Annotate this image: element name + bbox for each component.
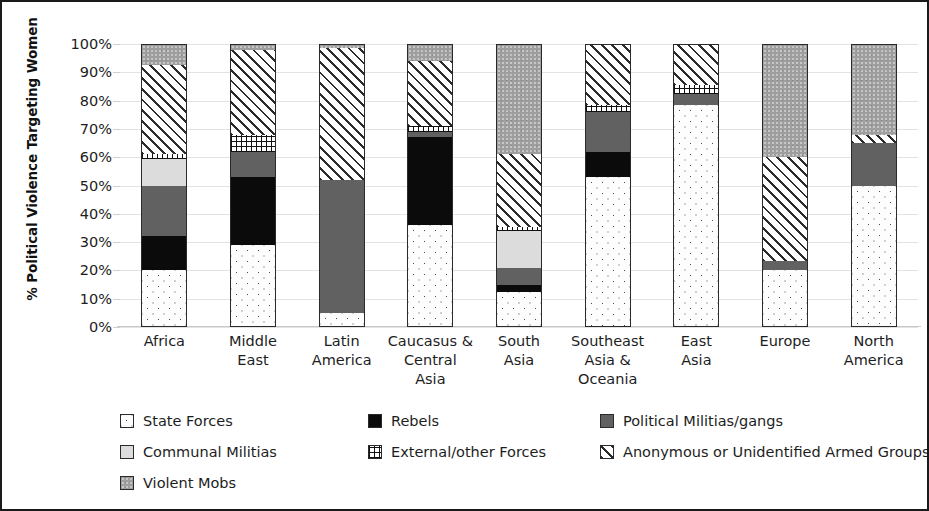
bar-segment-state[interactable] [851,186,897,328]
y-axis-tick-mark [113,157,120,158]
legend-item-mobs[interactable]: Violent Mobs [120,476,236,491]
y-axis-tick-mark [113,101,120,102]
bar-segment-external[interactable] [673,85,719,93]
chart-legend: State ForcesRebelsPolitical Militias/gan… [120,414,920,507]
x-axis-label: Caucasus &CentralAsia [382,332,478,389]
legend-item-rebels[interactable]: Rebels [368,414,439,429]
bar-segment-anonymous[interactable] [851,135,897,143]
bar-segment-mobs[interactable] [585,44,631,45]
stacked-bar[interactable] [319,44,365,327]
bar-group[interactable] [673,44,719,327]
y-axis-tick-mark [113,270,120,271]
bar-segment-mobs[interactable] [230,44,276,50]
bar-group[interactable] [230,44,276,327]
stacked-bar[interactable] [141,44,187,327]
bar-segment-polmil[interactable] [407,132,453,138]
stacked-bar[interactable] [230,44,276,327]
x-axis-label: Europe [737,332,833,351]
x-axis-label: SoutheastAsia &Oceania [560,332,656,389]
y-axis-tick-mark [113,186,120,187]
legend-row: State ForcesRebelsPolitical Militias/gan… [120,414,920,445]
bar-segment-anonymous[interactable] [407,61,453,126]
bar-segment-rebels[interactable] [496,285,542,292]
legend-row: Violent Mobs [120,476,920,507]
stacked-bar[interactable] [407,44,453,327]
bar-group[interactable] [585,44,631,327]
bar-segment-state[interactable] [141,270,187,327]
legend-item-state[interactable]: State Forces [120,414,233,429]
bar-segment-external[interactable] [141,154,187,158]
legend-row: Communal MilitiasExternal/other ForcesAn… [120,445,920,476]
bar-group[interactable] [407,44,453,327]
stacked-bar[interactable] [851,44,897,327]
bar-segment-state[interactable] [673,105,719,327]
legend-item-external[interactable]: External/other Forces [368,445,546,460]
bar-segment-polmil[interactable] [762,261,808,271]
bar-segment-communal[interactable] [141,159,187,186]
y-axis-tick-mark [113,214,120,215]
stacked-bar[interactable] [496,44,542,327]
bar-segment-anonymous[interactable] [496,154,542,226]
bar-segment-anonymous[interactable] [585,45,631,104]
bar-segment-state[interactable] [407,225,453,327]
bar-segment-mobs[interactable] [496,44,542,154]
bar-segment-anonymous[interactable] [141,65,187,154]
bar-segment-state[interactable] [762,270,808,327]
bar-group[interactable] [141,44,187,327]
bar-segment-polmil[interactable] [585,112,631,152]
bar-group[interactable] [496,44,542,327]
bar-segment-state[interactable] [496,292,542,327]
bar-segment-state[interactable] [230,245,276,327]
legend-label: Anonymous or Unidentified Armed Groups [623,445,929,460]
bar-segment-anonymous[interactable] [673,44,719,85]
legend-swatch-polmil-icon [600,414,614,428]
legend-item-anonymous[interactable]: Anonymous or Unidentified Armed Groups [600,445,929,460]
bar-segment-state[interactable] [319,313,365,327]
stacked-bar[interactable] [762,44,808,327]
bar-segment-external[interactable] [585,105,631,112]
bar-group[interactable] [319,44,365,327]
bar-segment-mobs[interactable] [407,44,453,61]
gridline [120,327,918,328]
bar-segment-rebels[interactable] [407,137,453,225]
stacked-bar[interactable] [585,44,631,327]
bar-segment-mobs[interactable] [851,44,897,135]
bar-segment-external[interactable] [230,135,276,152]
bar-segment-rebels[interactable] [141,236,187,270]
bar-segment-rebels[interactable] [585,152,631,177]
chart-frame: % Political Violence Targeting Women 0%1… [0,0,929,511]
bar-segment-external[interactable] [407,126,453,132]
y-axis-tick-label: 30% [58,235,112,250]
bar-segment-polmil[interactable] [496,268,542,285]
bar-segment-polmil[interactable] [230,152,276,177]
y-axis-title: % Political Violence Targeting Women [20,0,44,324]
bar-segment-anonymous[interactable] [230,50,276,135]
legend-item-communal[interactable]: Communal Militias [120,445,277,460]
bar-segment-mobs[interactable] [762,44,808,157]
legend-label: Rebels [391,414,439,429]
bar-segment-anonymous[interactable] [762,157,808,260]
bar-group[interactable] [851,44,897,327]
bar-group[interactable] [762,44,808,327]
y-axis-tick-mark [113,129,120,130]
bar-segment-polmil[interactable] [319,180,365,313]
legend-swatch-state-icon [120,414,134,428]
bar-segment-polmil[interactable] [673,94,719,105]
y-axis-tick-mark [113,72,120,73]
bar-segment-anonymous[interactable] [319,48,365,180]
bar-segment-polmil[interactable] [141,186,187,237]
bar-segment-rebels[interactable] [230,177,276,245]
x-axis-category-labels: AfricaMiddleEastLatinAmericaCaucasus &Ce… [120,332,918,402]
y-axis-tick-label: 100% [58,37,112,52]
bar-segment-mobs[interactable] [319,44,365,48]
y-axis-tick-label: 50% [58,178,112,193]
legend-label: Violent Mobs [143,476,236,491]
legend-item-polmil[interactable]: Political Militias/gangs [600,414,783,429]
bar-segment-communal[interactable] [496,231,542,268]
bar-segment-external[interactable] [496,227,542,231]
legend-swatch-communal-icon [120,445,134,459]
bar-segment-state[interactable] [585,177,631,327]
bar-segment-mobs[interactable] [141,44,187,65]
bar-segment-polmil[interactable] [851,143,897,185]
stacked-bar[interactable] [673,44,719,327]
